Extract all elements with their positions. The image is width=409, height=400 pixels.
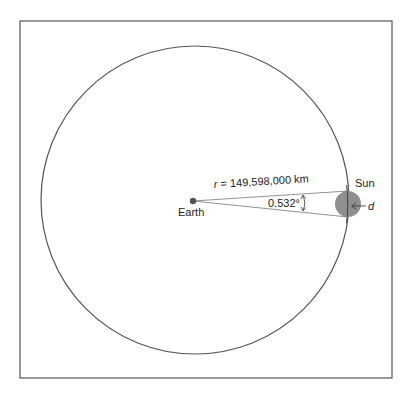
sun-label: Sun: [355, 177, 375, 189]
angle-arc: [303, 196, 305, 210]
earth-label: Earth: [178, 206, 204, 218]
diameter-label: d: [368, 200, 375, 212]
angle-label: 0.532°: [268, 197, 300, 209]
diagram-canvas: r = 149,598,000 km 0.532° Earth Sun d: [0, 0, 409, 400]
earth-dot: [190, 198, 196, 204]
distance-label: r = 149,598,000 km: [213, 172, 309, 190]
